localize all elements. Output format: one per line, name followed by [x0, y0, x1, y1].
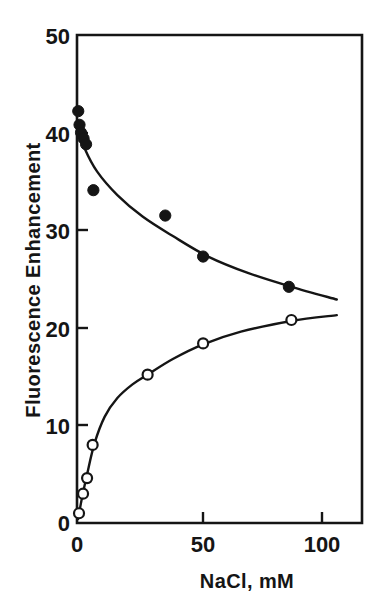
data-point-filled-circles-decreasing-7	[198, 251, 209, 262]
y-tick-label-10: 10	[46, 414, 70, 439]
y-tick-label-50: 50	[46, 24, 70, 49]
data-point-filled-circles-decreasing-0	[73, 106, 84, 117]
data-point-open-circles-increasing-2	[82, 473, 92, 483]
fit-curve-filled-circles-decreasing	[79, 131, 337, 300]
data-point-open-circles-increasing-3	[88, 440, 98, 450]
x-axis-label: NaCl, mM	[200, 570, 294, 592]
y-tick-label-30: 30	[46, 219, 70, 244]
y-tick-label-40: 40	[46, 122, 70, 147]
data-points-layer	[73, 106, 297, 519]
data-point-open-circles-increasing-4	[143, 370, 153, 380]
x-tick-label-50: 50	[191, 532, 215, 557]
y-tick-label-0: 0	[58, 511, 70, 536]
x-tick-label-0: 0	[71, 532, 83, 557]
data-point-open-circles-increasing-1	[78, 489, 88, 499]
data-point-open-circles-increasing-0	[74, 508, 84, 518]
data-point-filled-circles-decreasing-6	[160, 210, 171, 221]
plot-frame	[77, 35, 362, 523]
data-point-open-circles-increasing-6	[286, 315, 296, 325]
data-point-filled-circles-decreasing-8	[283, 281, 294, 292]
y-axis-label: Fluorescence Enhancement	[22, 142, 44, 417]
figure-container: 50 40 30 20 10 0 0 50 100 NaCl, mM Fluor…	[0, 0, 385, 597]
y-axis-ticks	[77, 133, 88, 425]
x-axis-ticks	[203, 512, 322, 523]
x-tick-label-100: 100	[304, 532, 341, 557]
fit-curves-layer	[78, 131, 337, 519]
y-tick-label-20: 20	[46, 317, 70, 342]
fluorescence-enhancement-chart: 50 40 30 20 10 0 0 50 100 NaCl, mM Fluor…	[0, 0, 385, 597]
data-point-open-circles-increasing-5	[198, 338, 208, 348]
data-point-filled-circles-decreasing-4	[80, 139, 91, 150]
data-point-filled-circles-decreasing-5	[88, 185, 99, 196]
